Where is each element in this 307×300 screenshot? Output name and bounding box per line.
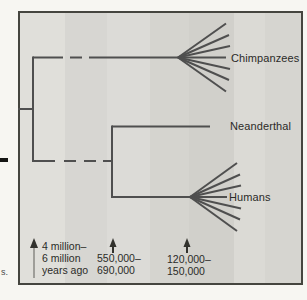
divergence-label-line: 120,000– [167,253,211,265]
cropped-text-fragment: s. [1,267,8,277]
divergence-label-neanderthal-split: 550,000– 690,000 [97,252,141,276]
divergence-label-chimp-split: 4 million– 6 million years ago [42,240,88,276]
divergence-label-human-origin: 120,000– 150,000 [167,253,211,277]
divergence-label-line: 690,000 [97,264,141,276]
figure-page: s. [0,0,307,300]
divergence-label-line: years ago [42,264,88,276]
divergence-label-line: 4 million– [42,240,88,252]
divergence-label-line: 550,000– [97,252,141,264]
taxon-label-chimpanzees: Chimpanzees [231,52,299,64]
cropped-dash-fragment [0,158,8,162]
taxon-label-humans: Humans [229,191,271,203]
divergence-label-line: 150,000 [167,265,211,277]
taxon-label-neanderthal: Neanderthal [230,120,291,132]
divergence-label-line: 6 million [42,252,88,264]
